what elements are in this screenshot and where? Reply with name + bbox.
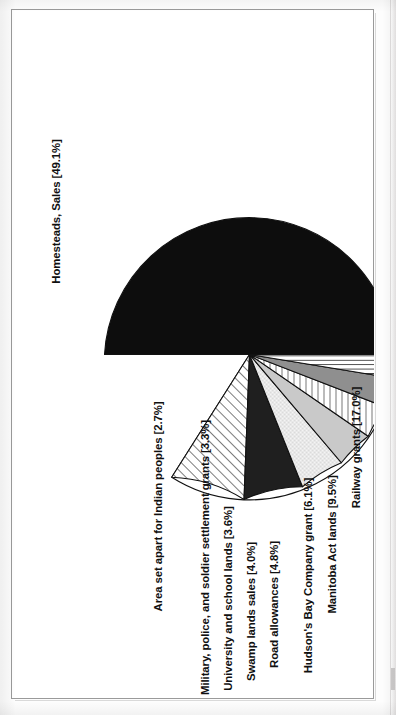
label-homesteads: Homesteads, Sales [49.1%] bbox=[49, 139, 61, 284]
pie-chart-figure: Homesteads, Sales [49.1%] Railway grants… bbox=[11, 9, 374, 699]
label-railway: Railway grants [17.0%] bbox=[349, 386, 361, 508]
label-road-allowances: Road allowances [4.8%] bbox=[267, 540, 279, 667]
pie-chart-rotation-group: Homesteads, Sales [49.1%] Railway grants… bbox=[11, 9, 374, 699]
facing-page-mark bbox=[391, 668, 395, 690]
scanned-page: Homesteads, Sales [49.1%] Railway grants… bbox=[0, 0, 396, 715]
label-indian-peoples: Area set apart for Indian peoples [2.7%] bbox=[151, 401, 163, 611]
label-swamp-lands: Swamp lands sales [4.0%] bbox=[244, 541, 256, 680]
label-military: Military, police, and soldier settlement… bbox=[198, 419, 210, 694]
pie-slice-homesteads[interactable] bbox=[104, 217, 374, 362]
label-hudsons-bay: Hudson's Bay Company grant [6.1%] bbox=[301, 477, 313, 673]
label-university: University and school lands [3.6%] bbox=[221, 505, 233, 690]
pie-slices bbox=[104, 217, 374, 499]
pie-chart-svg: Homesteads, Sales [49.1%] Railway grants… bbox=[11, 9, 374, 699]
label-manitoba: Manitoba Act lands [9.5%] bbox=[325, 475, 337, 614]
facing-page-edge bbox=[390, 0, 396, 715]
